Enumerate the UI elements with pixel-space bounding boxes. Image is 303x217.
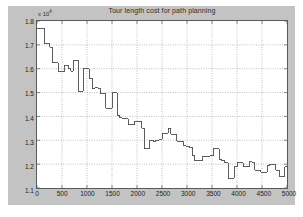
y-axis-exponent-label: x 104: [38, 9, 52, 17]
y-axis-exponent-mantissa: x 10: [38, 11, 49, 17]
x-axis-tick-label: 5000: [282, 190, 296, 197]
y-axis-tick-label: 1.4: [25, 114, 34, 121]
y-axis-exponent-power: 4: [49, 9, 52, 14]
y-axis-tick-label: 1.8: [25, 18, 34, 25]
y-axis-tick-label: 1.3: [25, 138, 34, 145]
x-axis-tick-label: 3000: [181, 190, 195, 197]
y-axis-tick-label: 1.7: [25, 42, 34, 49]
x-axis-tick-label: 4500: [257, 190, 271, 197]
x-axis-tick-label: 1500: [105, 190, 119, 197]
y-axis-tick-label: 1.6: [25, 66, 34, 73]
x-axis-tick-label: 2000: [131, 190, 145, 197]
x-axis-tick-label: 500: [57, 190, 68, 197]
x-axis-tick-label: 3500: [206, 190, 220, 197]
x-axis-tick-label: 4000: [231, 190, 245, 197]
x-axis-tick-label: 1000: [80, 190, 94, 197]
chart-title: Tour length cost for path planning: [36, 7, 288, 14]
y-axis-tick-label: 1.2: [25, 162, 34, 169]
y-axis-tick-label: 1.1: [25, 187, 34, 194]
x-axis-tick-labels: 0500100015002000250030003500400045005000: [37, 21, 287, 188]
plot-area: 1.11.21.31.41.51.61.71.8 050010001500200…: [36, 20, 288, 189]
y-axis-tick-label: 1.5: [25, 90, 34, 97]
matlab-figure-window: Tour length cost for path planning x 104…: [8, 6, 295, 205]
x-axis-tick-label: 2500: [156, 190, 170, 197]
x-axis-tick-label: 0: [35, 190, 39, 197]
